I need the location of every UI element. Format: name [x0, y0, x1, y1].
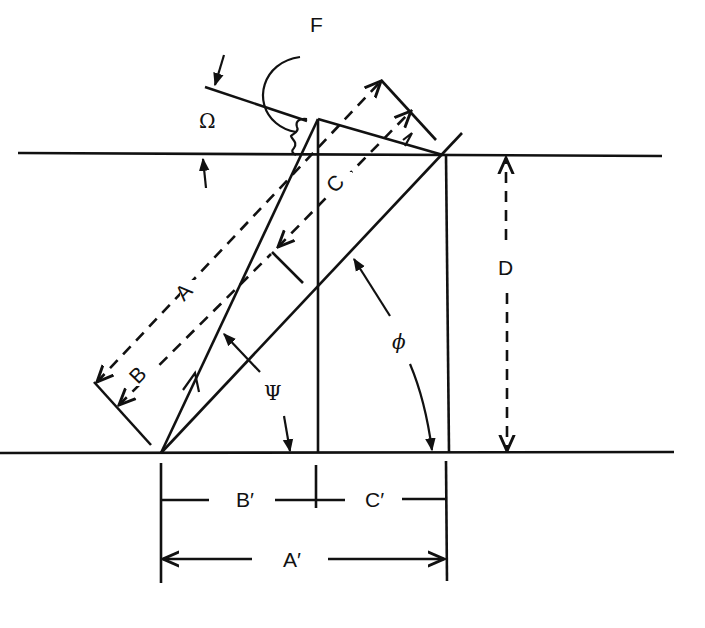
omega-arrow-top: [215, 55, 224, 85]
psi-arrow-lower: [284, 416, 290, 451]
geometry-diagram: A B C F Ω Ψ ϕ D B′ C′ A′: [0, 0, 705, 628]
extension-line-right: [446, 461, 447, 581]
label-B-prime: B′: [236, 488, 254, 511]
phi-arrow-upper: [354, 259, 390, 316]
dimension-A-dashed: [97, 81, 381, 382]
label-phi: ϕ: [392, 330, 406, 354]
perpendicular-bar-top: [381, 80, 436, 140]
label-A-prime: A′: [283, 548, 301, 571]
right-vertical-line: [446, 155, 449, 452]
label-psi: Ψ: [264, 381, 282, 405]
omega-arrow-bottom: [203, 159, 206, 188]
label-F: F: [310, 13, 323, 36]
phi-arrow-lower: [410, 364, 432, 450]
perpendicular-bar-mid: [272, 252, 303, 283]
perpendicular-bar-bottom: [94, 382, 151, 445]
top-horizontal-line: [18, 153, 662, 156]
F-arc: [263, 57, 300, 132]
label-omega: Ω: [199, 109, 216, 133]
label-D: D: [498, 256, 513, 279]
tilted-surface-line-right: [318, 119, 443, 155]
bottom-horizontal-line: [0, 452, 674, 453]
label-C-prime: C′: [365, 488, 384, 511]
tilted-surface-line: [205, 87, 307, 121]
